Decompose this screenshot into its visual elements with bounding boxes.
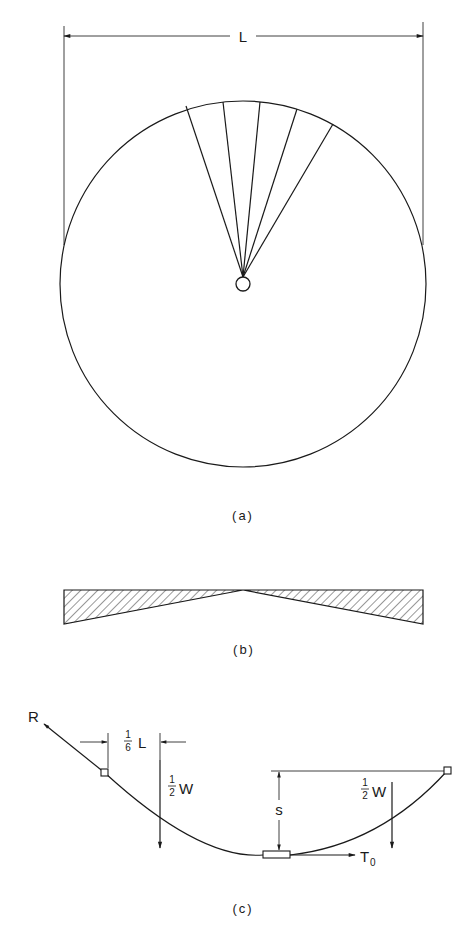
- panel-b: (b): [60, 585, 430, 657]
- load-left-symbol: W: [179, 780, 194, 797]
- spoke-1: [186, 106, 243, 277]
- caption-b: (b): [233, 642, 255, 657]
- load-right-symbol: W: [372, 783, 387, 800]
- dimension-one-sixth-L: 1 6 L: [80, 729, 186, 768]
- caption-c: (c): [232, 901, 253, 916]
- caption-a: (a): [232, 508, 254, 523]
- tension-symbol: T: [360, 848, 369, 865]
- cable-right: [290, 771, 447, 855]
- reaction-arrow-icon: [44, 724, 105, 773]
- hub-circle-icon: [236, 277, 250, 291]
- load-left-denominator: 2: [169, 787, 175, 798]
- load-right-numerator: 1: [362, 777, 368, 788]
- spoke-5: [243, 124, 333, 277]
- figure-canvas: L (a) (b) R: [0, 0, 474, 932]
- panel-c: R 1 6 L 1 2 W s T 0: [28, 708, 451, 916]
- tension-subscript: 0: [370, 857, 376, 868]
- spokes: [186, 102, 333, 277]
- dimension-label-L: L: [239, 28, 247, 45]
- right-support-node-icon: [444, 767, 451, 774]
- sag-label: s: [275, 801, 283, 818]
- spoke-2: [223, 102, 243, 277]
- load-right-denominator: 2: [362, 790, 368, 801]
- panel-a: L (a): [60, 22, 426, 523]
- center-hub-block-icon: [263, 851, 290, 858]
- left-support-node-icon: [101, 769, 108, 776]
- reaction-label: R: [28, 708, 39, 725]
- offset-symbol: L: [138, 734, 146, 751]
- dimension-L: L: [64, 22, 423, 245]
- offset-numerator: 1: [125, 729, 131, 740]
- load-left-numerator: 1: [169, 774, 175, 785]
- offset-denominator: 6: [125, 742, 131, 753]
